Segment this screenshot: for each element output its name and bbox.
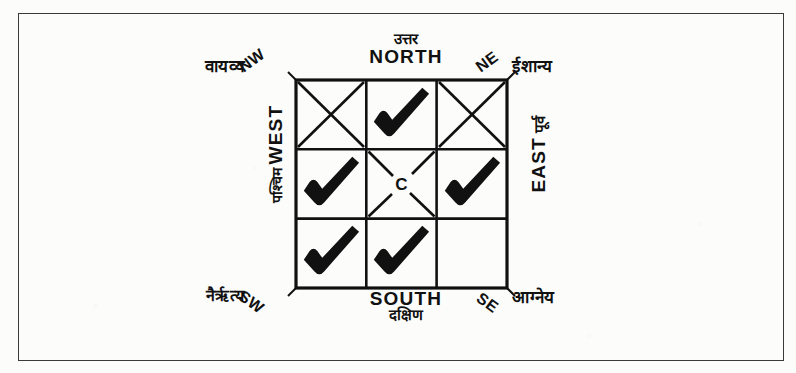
label-northeast-hindi: ईशान्य [512,56,552,76]
label-west-hindi: पश्चिम [269,167,285,203]
center-label: C [395,175,407,194]
leader-sw [288,288,296,296]
label-south: SOUTH दक्षिण [346,289,466,324]
cell-sw-tick [304,226,359,275]
label-south-hindi: दक्षिण [346,308,466,324]
label-southeast-hindi: आग्नेय [512,287,554,307]
label-west-english: WEST [265,105,286,165]
label-north: उत्तर NORTH [348,32,464,67]
cell-w-tick [304,157,359,206]
label-northeast: NEईशान्य [483,58,552,76]
scanned-page: C [0,0,796,373]
label-west: पश्चिमWEST [266,100,288,208]
cell-n-tick [374,88,429,137]
cell-ne-cross [439,82,505,147]
cell-nw-cross [298,82,364,147]
label-southwest: नैऋृत्यSW [206,288,272,305]
label-east: EASTपूर्व [529,100,551,208]
label-northwest: वायव्यNW [205,58,274,76]
label-north-english: NORTH [348,47,464,67]
label-east-english: EAST [528,137,549,192]
cell-s-tick [374,226,429,275]
label-southeast: SEआग्नेय [483,289,555,307]
leader-nw [288,72,296,80]
label-east-hindi: पूर्व [531,115,549,133]
cell-e-tick [445,157,500,206]
